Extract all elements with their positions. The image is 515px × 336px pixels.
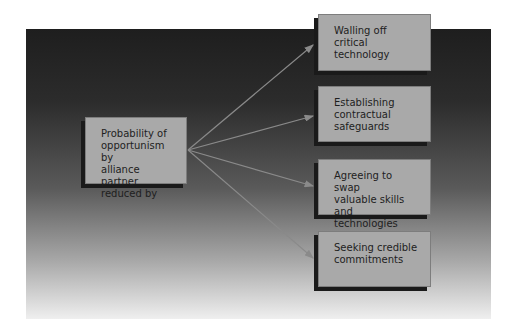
source-label: Probability of opportunism by alliance p… <box>101 128 174 200</box>
target-label: Establishing contractual safeguards <box>334 97 418 133</box>
arrow-to-credible-commitments <box>188 150 313 258</box>
arrow-to-contractual-safeguards <box>188 116 313 150</box>
source-box: Probability of opportunism by alliance p… <box>85 117 187 184</box>
arrow-to-walling-off <box>188 45 313 150</box>
arrow-to-swap-skills <box>188 150 313 186</box>
arrows-layer <box>0 0 515 336</box>
target-label: Walling off critical technology <box>334 25 418 61</box>
target-label: Seeking credible commitments <box>334 242 418 266</box>
target-box-swap-skills: Agreeing to swap valuable skills and tec… <box>318 159 431 215</box>
target-box-contractual-safeguards: Establishing contractual safeguards <box>318 86 431 142</box>
target-box-credible-commitments: Seeking credible commitments <box>318 231 431 287</box>
target-label: Agreeing to swap valuable skills and tec… <box>334 170 418 230</box>
target-box-walling-off: Walling off critical technology <box>318 14 431 71</box>
